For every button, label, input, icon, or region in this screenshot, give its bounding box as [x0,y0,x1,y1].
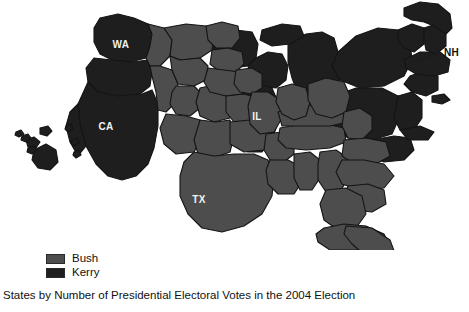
label-ca: CA [98,121,113,132]
label-il: IL [252,111,262,122]
label-tx: TX [192,194,206,205]
legend-row-bush: Bush [46,252,166,265]
legend-swatch-kerry [46,268,65,278]
state-wv[interactable] [342,108,372,140]
state-tn[interactable] [278,124,346,150]
state-ms[interactable] [294,152,320,190]
us-cartogram-svg: WA CA IL TX FL NH [0,0,469,250]
label-nh: NH [444,47,459,58]
state-nm[interactable] [194,120,234,158]
figure-caption: States by Number of Presidential Elector… [3,289,355,301]
legend-row-kerry: Kerry [46,266,166,279]
map-legend: Bush Kerry [46,252,166,280]
map-canvas: WA CA IL TX FL NH [0,0,469,250]
state-nj[interactable] [394,92,422,130]
state-ia[interactable] [234,68,262,94]
cartogram-figure: WA CA IL TX FL NH Bush Kerry States by N… [0,0,469,312]
legend-label-kerry: Kerry [72,266,99,279]
label-wa: WA [113,39,130,50]
legend-swatch-bush [46,254,65,264]
legend-label-bush: Bush [72,252,98,265]
